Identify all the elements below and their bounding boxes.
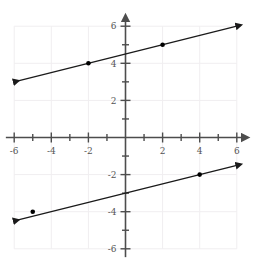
coordinate-plane-graph: -6-4-2246642-2-4-6 xyxy=(0,0,255,270)
x-tick-label: -2 xyxy=(84,146,93,156)
x-tick-label: -4 xyxy=(47,146,56,156)
plotted-point xyxy=(86,61,91,66)
y-tick-label: -6 xyxy=(108,244,117,254)
x-tick-label: 4 xyxy=(197,146,203,156)
x-tick-label: -6 xyxy=(10,146,19,156)
y-tick-label: 2 xyxy=(111,96,117,106)
plotted-point xyxy=(197,172,202,177)
plotted-point xyxy=(30,209,35,214)
y-tick-label: 6 xyxy=(111,21,117,31)
x-tick-label: 6 xyxy=(234,146,240,156)
y-tick-label: -4 xyxy=(108,207,117,217)
axes xyxy=(6,21,243,258)
plotted-point xyxy=(160,42,165,47)
y-tick-label: 4 xyxy=(111,59,117,69)
y-tick-label: -2 xyxy=(108,170,117,180)
x-tick-label: 2 xyxy=(160,146,166,156)
graph-canvas: -6-4-2246642-2-4-6 xyxy=(0,0,255,270)
